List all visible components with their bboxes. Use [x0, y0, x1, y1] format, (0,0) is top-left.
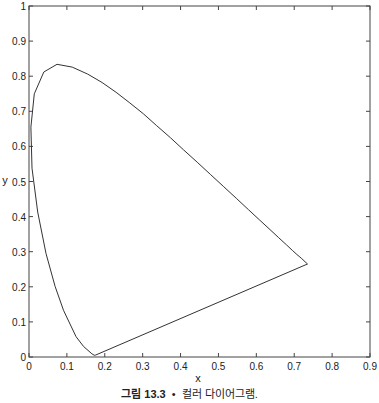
- x-tick-label: 0.4: [174, 361, 188, 372]
- figure-caption: 그림 13.3 • 컬러 다이어그램.: [0, 385, 379, 401]
- x-tick-label: 0.3: [136, 361, 150, 372]
- figure-number: 그림 13.3: [121, 388, 165, 400]
- x-tick-label: 0.2: [98, 361, 112, 372]
- x-axis-label: x: [195, 372, 201, 384]
- y-tick-label: 0.4: [12, 212, 26, 223]
- y-tick-label: 0: [20, 352, 26, 363]
- x-tick-label: 0: [26, 361, 32, 372]
- y-tick-label: 1: [20, 1, 26, 12]
- y-tick-label: 0.5: [12, 177, 26, 188]
- y-axis-ticks: 00.10.20.30.40.50.60.70.80.91: [12, 1, 370, 363]
- caption-bullet: •: [172, 388, 176, 400]
- x-tick-label: 0.5: [211, 361, 225, 372]
- y-axis-label: y: [2, 174, 8, 186]
- x-tick-label: 0.6: [249, 361, 263, 372]
- caption-text: 컬러 다이어그램.: [182, 388, 258, 400]
- chromaticity-chart: 00.10.20.30.40.50.60.70.80.9 00.10.20.30…: [0, 0, 379, 385]
- x-axis-ticks: 00.10.20.30.40.50.60.70.80.9: [26, 6, 377, 372]
- y-tick-label: 0.9: [12, 36, 26, 47]
- x-tick-label: 0.9: [363, 361, 377, 372]
- y-tick-label: 0.8: [12, 71, 26, 82]
- y-tick-label: 0.2: [12, 282, 26, 293]
- y-tick-label: 0.3: [12, 247, 26, 258]
- y-tick-label: 0.7: [12, 106, 26, 117]
- x-tick-label: 0.7: [287, 361, 301, 372]
- y-tick-label: 0.6: [12, 141, 26, 152]
- x-tick-label: 0.1: [60, 361, 74, 372]
- x-tick-label: 0.8: [325, 361, 339, 372]
- spectral-locus-curve: [31, 64, 308, 355]
- plot-frame: [29, 6, 370, 357]
- y-tick-label: 0.1: [12, 317, 26, 328]
